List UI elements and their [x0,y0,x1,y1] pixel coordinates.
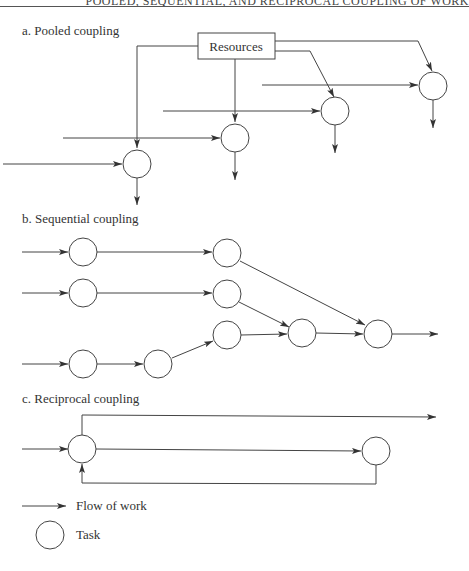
task-circle [123,150,151,178]
task-circle [213,239,241,267]
panel-reciprocal [22,415,436,484]
legend [22,506,66,549]
coupling-diagram: a. Pooled coupling Resources b. Sequenti… [0,0,469,571]
panel-a-title: a. Pooled coupling [22,23,120,38]
panel-b-title: b. Sequential coupling [22,211,139,226]
panel-c-title: c. Reciprocal coupling [22,391,140,406]
task-circle [288,319,316,347]
task-circle [221,124,249,152]
task-circle [69,238,97,266]
task-circle [69,279,97,307]
panel-pooled [3,33,447,205]
legend-task-label: Task [76,527,101,542]
task-circle [362,437,390,465]
legend-flow-label: Flow of work [76,498,147,513]
task-circle [321,97,349,125]
task-circle [213,321,241,349]
panel-sequential [22,238,438,378]
task-circle [69,350,97,378]
circle-icon [36,521,64,549]
task-circle [419,72,447,100]
task-circle [213,280,241,308]
task-circle [144,350,172,378]
task-circle [68,435,96,463]
task-circle [364,320,392,348]
resources-label: Resources [209,39,262,54]
